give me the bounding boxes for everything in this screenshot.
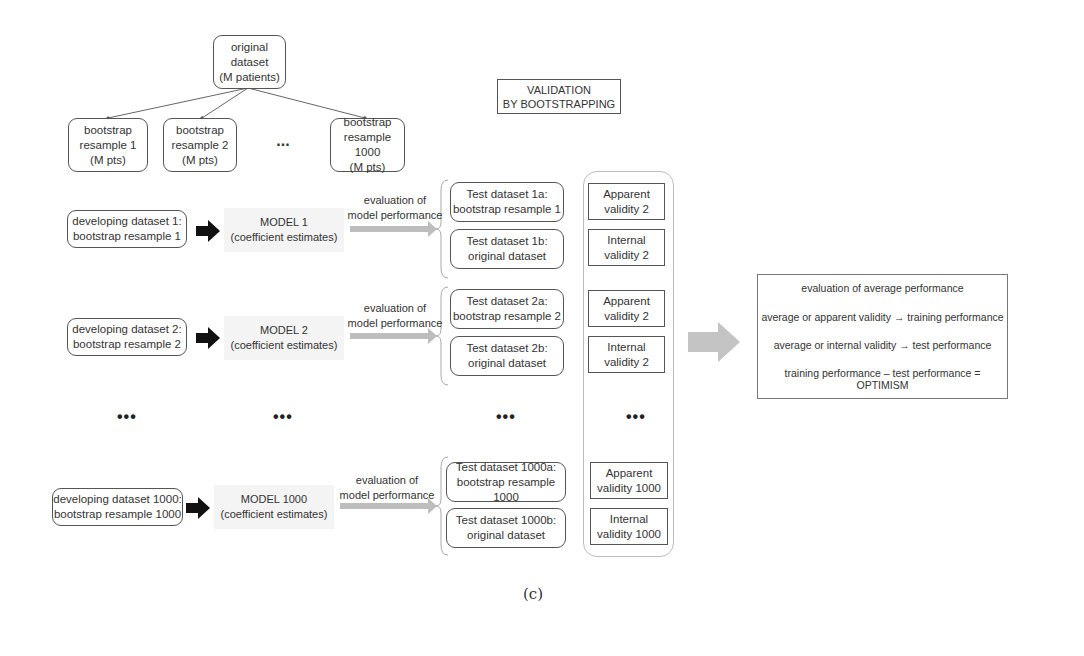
test-dataset-1a: Test dataset 1a: bootstrap resample 1 xyxy=(450,182,564,222)
test-dataset-1000a: Test dataset 1000a: bootstrap resample 1… xyxy=(446,462,566,502)
validity-container xyxy=(583,171,674,557)
summary-line-1: average or apparent validity → training … xyxy=(758,311,1007,323)
bootstrap-resample-1000-node: bootstrap resample 1000 (M pts) xyxy=(330,118,405,172)
summary-box: evaluation of average performance averag… xyxy=(757,274,1008,399)
figure-caption: (c) xyxy=(523,585,543,603)
black-arrow-icon xyxy=(186,220,220,519)
test-dataset-2a: Test dataset 2a: bootstrap resample 2 xyxy=(450,289,564,329)
eval-label-2: evaluation of model performance xyxy=(345,301,445,331)
bootstrap-resample-2-node: bootstrap resample 2 (M pts) xyxy=(163,118,237,172)
test-dataset-2b: Test dataset 2b: original dataset xyxy=(450,336,564,376)
summary-title: evaluation of average performance xyxy=(758,282,1007,294)
model-2: MODEL 2 (coefficient estimates) xyxy=(224,316,344,360)
summary-line-3: training performance – test performance … xyxy=(758,367,1007,391)
ellipsis-model: ••• xyxy=(273,408,293,426)
tree-ellipsis: ... xyxy=(268,133,298,148)
summary-line-2: average or internal validity → test perf… xyxy=(758,339,1007,351)
model-1: MODEL 1 (coefficient estimates) xyxy=(224,208,344,252)
test-dataset-1000b: Test dataset 1000b: original dataset xyxy=(446,508,566,548)
eval-label-1000: evaluation of model performance xyxy=(337,473,437,503)
developing-dataset-2: developing dataset 2: bootstrap resample… xyxy=(67,318,187,356)
eval-label-1: evaluation of model performance xyxy=(345,193,445,223)
test-dataset-1b: Test dataset 1b: original dataset xyxy=(450,229,564,269)
ellipsis-developing: ••• xyxy=(117,408,137,426)
original-dataset-node: original dataset (M patients) xyxy=(213,35,286,89)
summary-arrow-icon xyxy=(688,322,740,362)
developing-dataset-1: developing dataset 1: bootstrap resample… xyxy=(67,210,187,248)
bootstrap-resample-1-node: bootstrap resample 1 (M pts) xyxy=(68,118,148,172)
developing-dataset-1000: developing dataset 1000: bootstrap resam… xyxy=(52,488,183,526)
title-box: VALIDATION BY BOOTSTRAPPING xyxy=(497,79,621,114)
model-1000: MODEL 1000 (coefficient estimates) xyxy=(214,485,334,529)
ellipsis-test: ••• xyxy=(496,408,516,426)
